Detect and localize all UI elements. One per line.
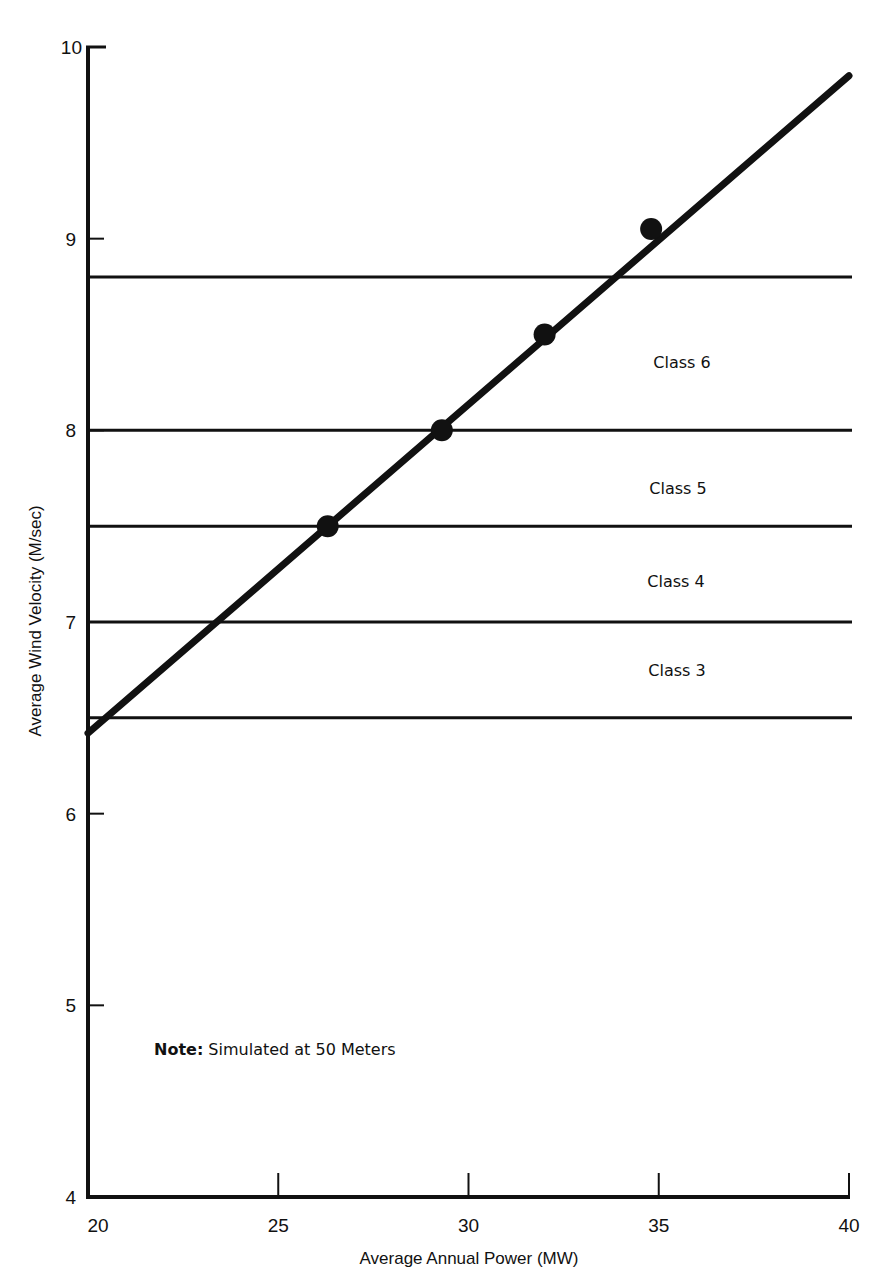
note-annotation: Note: Simulated at 50 Meters [154, 1040, 396, 1059]
y-tick-label: 4 [65, 1187, 76, 1208]
x-tick-label: 25 [268, 1215, 289, 1236]
data-point [534, 324, 556, 346]
y-tick-label: 9 [65, 229, 76, 250]
class-6-label: Class 6 [653, 353, 710, 372]
class-boundary-lines [88, 277, 852, 718]
x-axis-title: Average Annual Power (MW) [360, 1249, 579, 1268]
y-tick-label: 7 [65, 612, 76, 633]
data-point [431, 419, 453, 441]
x-tick-label: 35 [648, 1215, 669, 1236]
fitted-line [88, 76, 849, 733]
x-axis-ticks: 2025303540 [87, 1173, 859, 1236]
x-tick-label: 20 [87, 1215, 108, 1236]
y-axis-title: Average Wind Velocity (M/sec) [26, 505, 45, 736]
fitted-line-path [88, 76, 849, 733]
data-point [317, 515, 339, 537]
x-tick-label: 40 [838, 1215, 859, 1236]
note-text: Simulated at 50 Meters [203, 1040, 395, 1059]
class-3-label: Class 3 [648, 661, 705, 680]
y-tick-label: 10 [61, 37, 82, 58]
x-tick-label: 30 [458, 1215, 479, 1236]
y-axis-ticks: 45678910 [61, 37, 104, 1208]
wind-velocity-chart: 45678910 2025303540 Class 6 Class 5 Clas… [0, 0, 878, 1278]
class-4-label: Class 4 [647, 572, 704, 591]
y-tick-label: 6 [65, 804, 76, 825]
class-5-label: Class 5 [649, 479, 706, 498]
data-point [640, 218, 662, 240]
y-tick-label: 8 [65, 420, 76, 441]
y-tick-label: 5 [65, 995, 76, 1016]
note-label: Note: [154, 1040, 203, 1059]
